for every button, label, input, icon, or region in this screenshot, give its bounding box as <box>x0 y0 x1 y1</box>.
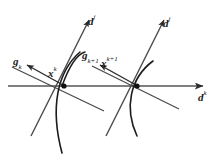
axis-label-dk-sup: k <box>204 89 207 97</box>
figure-root: dk dj dj gk gk+1 xk xk+1 <box>0 0 224 162</box>
direction-label-dj-right-sup: j <box>169 15 171 23</box>
gradient-arrow-gk <box>27 65 63 85</box>
point-label-xk-sup: k <box>54 65 57 73</box>
diagram-canvas <box>0 0 224 162</box>
gradient-label-gk1-sub: k+1 <box>88 57 99 65</box>
gradient-label-gk-sub: k <box>19 63 22 71</box>
direction-line-dj-left <box>31 20 89 136</box>
direction-label-dj-right: dj <box>163 14 170 30</box>
gradient-label-gk: gk <box>13 52 22 68</box>
axis-label-dk: dk <box>198 88 207 104</box>
point-label-xk: xk <box>48 64 57 80</box>
contour-arc-right <box>130 61 153 136</box>
point-label-xk1: xk+1 <box>101 54 118 70</box>
direction-label-dj-left-sup: j <box>94 13 96 21</box>
contour-arc-left <box>56 52 80 153</box>
point-label-xk1-sup: k+1 <box>107 55 118 63</box>
direction-line-dj-right <box>106 20 164 136</box>
gradient-label-gk1: gk+1 <box>82 46 99 62</box>
node-point-xk <box>61 83 66 88</box>
node-point-xk1 <box>134 83 139 88</box>
direction-label-dj-left: dj <box>88 12 95 28</box>
